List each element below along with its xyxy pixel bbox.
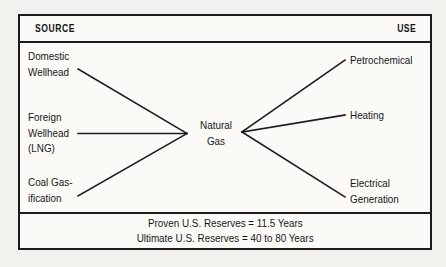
footer-band: Proven U.S. Reserves = 11.5 Years Ultima… <box>20 212 430 248</box>
source-foreign-line1: Foreign <box>28 110 69 126</box>
center-node-line1: Natural <box>192 118 241 134</box>
source-domestic-line2: Wellhead <box>28 65 69 81</box>
use-label-petrochemical: Petrochemical <box>350 53 413 69</box>
proven-reserves-text: Proven U.S. Reserves = 11.5 Years <box>148 216 303 231</box>
use-electrical-line1: Electrical <box>350 176 399 192</box>
use-label-heating: Heating <box>350 108 384 124</box>
natural-gas-flow-diagram: SOURCE USE Proven U.S. Reserves = 11.5 Y… <box>0 0 446 267</box>
source-coal-line1: Coal Gas- <box>28 175 72 191</box>
source-coal-line2: ification <box>28 191 72 207</box>
use-heating-line1: Heating <box>350 108 384 124</box>
center-node-natural-gas: Natural Gas <box>192 118 241 149</box>
source-foreign-line3: (LNG) <box>28 141 69 157</box>
source-foreign-line2: Wellhead <box>28 126 69 142</box>
use-column-header: USE <box>397 23 416 34</box>
source-label-coal-gasification: Coal Gas- ification <box>28 175 72 206</box>
source-domestic-line1: Domestic <box>28 49 69 65</box>
use-electrical-line2: Generation <box>350 192 399 208</box>
center-node-line2: Gas <box>192 134 241 150</box>
use-petrochemical-line1: Petrochemical <box>350 53 413 69</box>
source-column-header: SOURCE <box>35 23 75 34</box>
source-label-foreign-wellhead: Foreign Wellhead (LNG) <box>28 110 69 157</box>
use-label-electrical-generation: Electrical Generation <box>350 176 399 207</box>
header-band: SOURCE USE <box>20 16 430 43</box>
source-label-domestic-wellhead: Domestic Wellhead <box>28 49 69 80</box>
ultimate-reserves-text: Ultimate U.S. Reserves = 40 to 80 Years <box>137 231 314 246</box>
